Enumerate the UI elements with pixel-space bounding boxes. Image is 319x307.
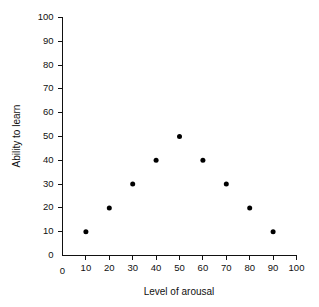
y-tick-label: 80 bbox=[43, 59, 54, 70]
x-axis-ticks bbox=[86, 256, 297, 261]
y-tick-label: 60 bbox=[43, 106, 54, 117]
x-tick-label: 0 bbox=[60, 265, 65, 276]
x-tick-label: 50 bbox=[174, 262, 185, 273]
x-tick-label: 100 bbox=[289, 262, 305, 273]
data-point bbox=[200, 158, 205, 163]
y-tick-label: 90 bbox=[43, 35, 54, 46]
scatter-chart-figure: 0102030405060708090100 01020304050607080… bbox=[0, 0, 319, 307]
data-point bbox=[247, 205, 252, 210]
y-axis-tick-labels: 0102030405060708090100 bbox=[38, 11, 54, 260]
x-tick-label: 80 bbox=[244, 262, 255, 273]
x-tick-label: 70 bbox=[221, 262, 232, 273]
data-point bbox=[130, 182, 135, 187]
x-tick-label: 10 bbox=[81, 262, 92, 273]
y-tick-label: 20 bbox=[43, 201, 54, 212]
x-tick-label: 60 bbox=[198, 262, 209, 273]
y-tick-label: 10 bbox=[43, 225, 54, 236]
data-point bbox=[107, 205, 112, 210]
data-point bbox=[271, 229, 276, 234]
data-point bbox=[224, 182, 229, 187]
y-axis-title: Ability to learn bbox=[11, 105, 22, 168]
data-point bbox=[177, 134, 182, 139]
y-tick-label: 50 bbox=[43, 130, 54, 141]
data-point-series bbox=[83, 134, 275, 234]
data-point bbox=[154, 158, 159, 163]
y-tick-label: 30 bbox=[43, 178, 54, 189]
y-axis-ticks bbox=[58, 18, 63, 232]
x-tick-label: 90 bbox=[268, 262, 279, 273]
y-tick-label: 70 bbox=[43, 82, 54, 93]
x-tick-label: 30 bbox=[127, 262, 138, 273]
y-axis-group: 0102030405060708090100 bbox=[38, 11, 63, 260]
y-tick-label: 0 bbox=[48, 249, 53, 260]
chart-canvas: 0102030405060708090100 01020304050607080… bbox=[0, 0, 319, 307]
x-tick-label: 20 bbox=[104, 262, 115, 273]
y-tick-label: 40 bbox=[43, 154, 54, 165]
x-axis-group: 0102030405060708090100 bbox=[60, 256, 305, 276]
y-tick-label: 100 bbox=[38, 11, 54, 22]
x-tick-label: 40 bbox=[151, 262, 162, 273]
x-axis-tick-labels: 0102030405060708090100 bbox=[60, 262, 305, 276]
data-point bbox=[83, 229, 88, 234]
x-axis-title: Level of arousal bbox=[144, 286, 215, 297]
